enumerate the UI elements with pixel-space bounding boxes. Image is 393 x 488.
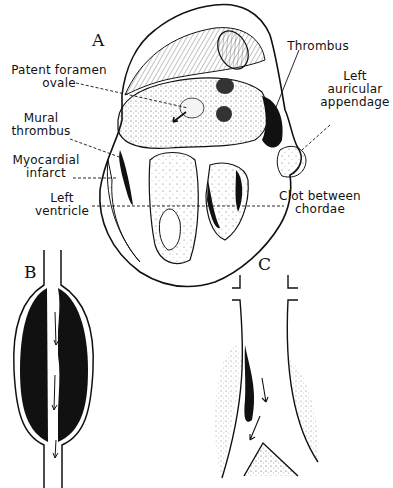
label-myocardial-infarct: Myocardial infarct [6, 154, 86, 180]
panel-letter-a: A [92, 30, 104, 50]
label-line: appendage [318, 96, 392, 109]
heart-illustration [100, 4, 306, 286]
label-thrombus: Thrombus [282, 40, 354, 53]
label-line: ovale [4, 77, 114, 90]
label-patent-foramen-ovale: Patent foramen ovale [4, 64, 114, 90]
label-line: Thrombus [282, 40, 354, 53]
label-left-ventricle: Left ventricle [30, 192, 94, 218]
label-line: thrombus [6, 125, 76, 138]
label-left-auricular-appendage: Left auricular appendage [318, 70, 392, 109]
label-mural-thrombus: Mural thrombus [6, 112, 76, 138]
panel-letter-b: B [24, 262, 37, 282]
label-line: chordae [272, 203, 368, 216]
label-clot-between-chordae: Clot between chordae [272, 190, 368, 216]
label-line: infarct [6, 167, 86, 180]
vessel-b-illustration [14, 250, 94, 488]
vessel-c-illustration [215, 275, 318, 478]
panel-letter-c: C [258, 254, 271, 274]
label-line: ventricle [30, 205, 94, 218]
